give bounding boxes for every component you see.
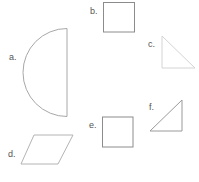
parallelogram-shape	[21, 135, 73, 164]
shape-a: a.	[9, 29, 67, 117]
shape-e: e.	[89, 117, 133, 147]
label-a: a.	[9, 52, 17, 62]
shape-c: c.	[148, 36, 195, 68]
triangle-shape	[162, 36, 195, 68]
triangle-shape	[150, 100, 182, 131]
shapes-diagram: a. b. c. d. e. f.	[0, 0, 199, 182]
shape-d: d.	[8, 135, 73, 164]
shape-b: b.	[90, 3, 135, 33]
label-e: e.	[89, 120, 97, 130]
shape-f: f.	[149, 100, 182, 131]
label-c: c.	[148, 39, 155, 49]
semicircle-shape	[23, 29, 67, 117]
label-b: b.	[90, 6, 98, 16]
square-shape	[104, 3, 135, 33]
label-d: d.	[8, 149, 16, 159]
label-f: f.	[149, 102, 154, 112]
square-shape	[103, 117, 134, 147]
